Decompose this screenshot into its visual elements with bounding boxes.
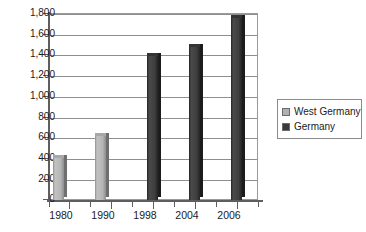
bar-face: [95, 136, 106, 200]
x-axis-label: 1990: [84, 210, 122, 221]
x-tick: [49, 202, 50, 207]
bar-face: [189, 47, 200, 200]
bar-chart: 1,800 1,600 1,400 1,200 1,000 800 600 40…: [0, 0, 366, 232]
bar-face: [231, 18, 242, 200]
legend-label: Germany: [294, 121, 335, 132]
x-tick: [132, 202, 133, 207]
legend-item-west-germany: West Germany: [282, 104, 357, 119]
legend-swatch-icon: [282, 108, 290, 116]
x-tick: [237, 202, 238, 209]
x-tick: [216, 202, 217, 207]
x-tick: [111, 202, 112, 209]
bar-germany-1998: [147, 56, 158, 200]
bar-face: [147, 56, 158, 200]
bar-side: [158, 53, 161, 197]
bar-germany-2004: [189, 47, 200, 200]
bar-side: [200, 44, 203, 197]
x-axis-label: 2006: [210, 210, 248, 221]
bar-side: [106, 133, 109, 197]
legend-swatch-icon: [282, 123, 290, 131]
y-axis-label: 1,000: [30, 91, 55, 101]
x-axis: [47, 200, 263, 202]
legend: West Germany Germany: [277, 99, 362, 139]
y-axis-label: 1,400: [30, 49, 55, 59]
x-axis-label: 2004: [168, 210, 206, 221]
y-axis-label: 600: [38, 132, 55, 142]
x-tick: [153, 202, 154, 209]
x-tick: [174, 202, 175, 207]
bar-side: [64, 155, 67, 197]
y-axis-label: 800: [38, 112, 55, 122]
x-tick: [90, 202, 91, 207]
gridline: [50, 35, 257, 36]
bar-germany-2006: [231, 18, 242, 200]
bar-top: [147, 53, 158, 56]
bar-face: [53, 158, 64, 200]
y-axis-label: 1,200: [30, 70, 55, 80]
gridline: [50, 14, 257, 15]
bar-west-germany-1990: [95, 136, 106, 200]
x-axis-label: 1998: [126, 210, 164, 221]
bar-top: [231, 15, 242, 18]
legend-item-germany: Germany: [282, 119, 357, 134]
x-tick: [69, 202, 70, 209]
bar-side: [242, 15, 245, 197]
x-tick: [258, 202, 259, 207]
bar-top: [189, 44, 200, 47]
y-axis-label: 1,600: [30, 29, 55, 39]
bar-west-germany-1980: [53, 158, 64, 200]
x-axis-label: 1980: [42, 210, 80, 221]
legend-label: West Germany: [294, 106, 361, 117]
bar-top: [53, 155, 64, 158]
bar-top: [95, 133, 106, 136]
y-axis-label: 1,800: [30, 8, 55, 18]
y-tick: [43, 199, 49, 200]
x-tick: [195, 202, 196, 209]
